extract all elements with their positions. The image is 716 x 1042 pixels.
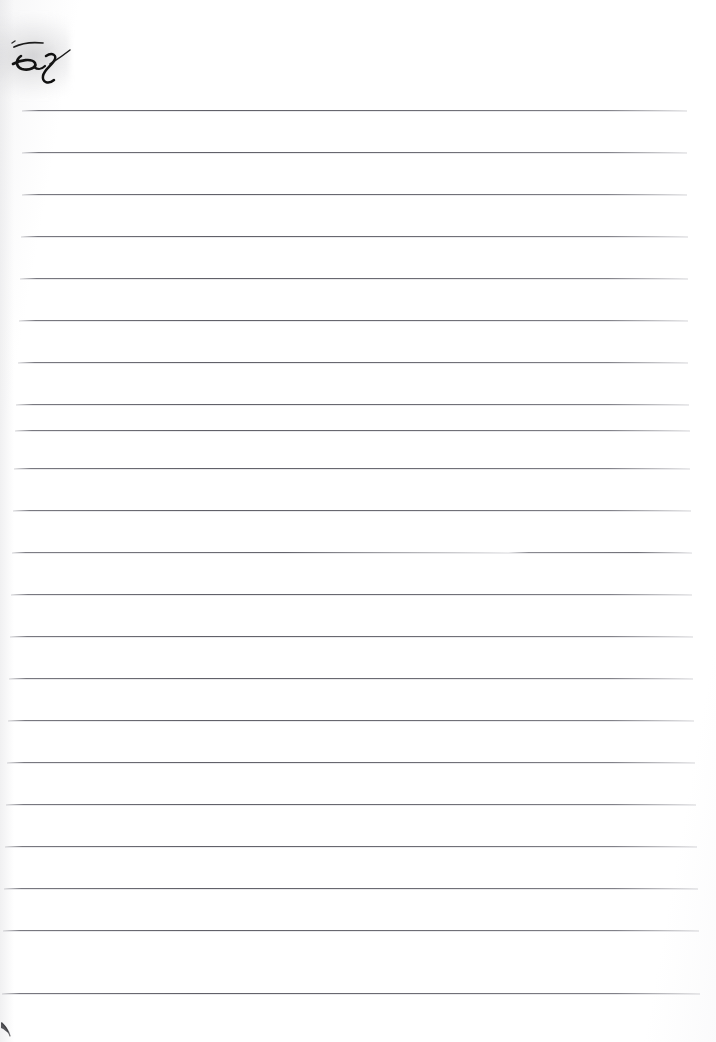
ruled-line [15, 430, 690, 431]
ruled-line [20, 278, 688, 279]
ruled-line [13, 510, 691, 511]
ruled-line [10, 636, 693, 637]
ruled-line [11, 594, 692, 595]
ruled-line [16, 404, 689, 405]
ruled-line [22, 152, 687, 153]
ruled-line [22, 110, 687, 111]
ruled-line [22, 194, 687, 195]
scanned-page [0, 0, 716, 1042]
ruled-line [9, 678, 693, 679]
ruled-line [19, 320, 688, 321]
ruled-line [5, 846, 697, 847]
ruled-line [14, 468, 690, 469]
ruled-line [18, 362, 688, 363]
ruled-line [7, 762, 695, 763]
ruled-line [12, 552, 692, 553]
ruled-line [21, 236, 688, 237]
ruled-line [2, 993, 700, 994]
ruled-line [8, 720, 694, 721]
ruled-line [4, 888, 698, 889]
ruled-lines-container [0, 0, 716, 1042]
ruled-line [6, 804, 696, 805]
ruled-line [3, 930, 699, 931]
